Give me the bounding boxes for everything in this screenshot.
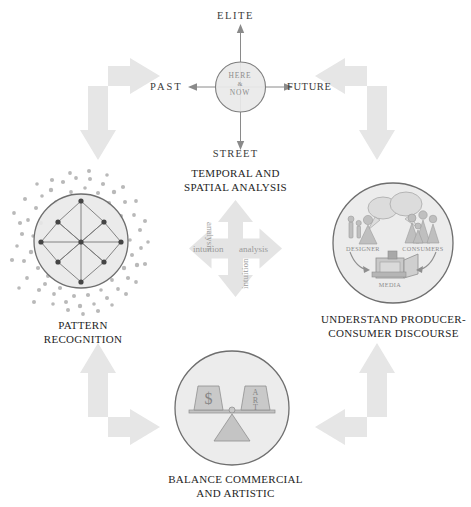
diamond-word-bottom: intuition [240, 258, 250, 289]
core-line-here: HERE [215, 71, 265, 80]
caption-producer-line1: UNDERSTAND PRODUCER- [316, 312, 471, 326]
weight-art-t: T [253, 403, 258, 412]
diamond-word-right: analysis [239, 244, 268, 254]
caption-producer-line2: CONSUMER DISCOURSE [316, 326, 471, 340]
core-line-now: NOW [215, 88, 265, 97]
flow-arrow-bottom-left [60, 340, 165, 445]
caption-balance-line1: BALANCE COMMERCIAL [0, 472, 471, 486]
flow-arrow-bottom-right [310, 340, 415, 445]
axis-label-north: ELITE [0, 10, 471, 21]
axis-label-east: FUTURE [287, 81, 331, 92]
label-consumers: CONSUMERS [402, 245, 444, 252]
balance-graphic: $ A R T [172, 348, 292, 468]
caption-balance: BALANCE COMMERCIAL AND ARTISTIC [0, 472, 471, 500]
diamond-word-top: analysis [205, 222, 215, 251]
core-line-ampersand: & [215, 80, 265, 88]
caption-pattern-line1: PATTERN [8, 318, 158, 332]
caption-producer-consumer: UNDERSTAND PRODUCER- CONSUMER DISCOURSE [316, 312, 471, 340]
label-designer: DESIGNER [346, 245, 380, 252]
diagram-canvas: ELITE STREET PAST FUTURE HERE & NOW TEMP… [0, 0, 471, 507]
weight-dollar: $ [205, 390, 213, 407]
pattern-recognition-graphic [8, 168, 158, 318]
producer-consumer-graphic: DESIGNER CONSUMERS MEDIA [330, 180, 456, 306]
caption-balance-line2: AND ARTISTIC [0, 486, 471, 500]
label-media: MEDIA [379, 281, 401, 288]
caption-pattern-line2: RECOGNITION [8, 332, 158, 346]
here-now-core: HERE & NOW [215, 71, 265, 97]
axis-label-south: STREET [0, 148, 471, 159]
axis-label-west: PAST [150, 81, 183, 92]
caption-pattern-recognition: PATTERN RECOGNITION [8, 318, 158, 346]
